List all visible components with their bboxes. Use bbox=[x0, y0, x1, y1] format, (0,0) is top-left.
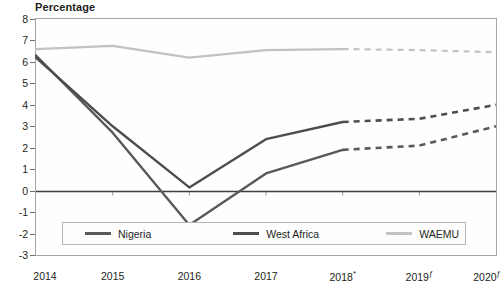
legend-label-nigeria: Nigeria bbox=[118, 228, 151, 240]
series-line-west-africa bbox=[36, 58, 343, 188]
series-forecast-west-africa bbox=[343, 105, 496, 122]
chart-container: Percentage 876543210-1-2-3 2014201520162… bbox=[0, 0, 503, 283]
legend-swatch-nigeria bbox=[85, 232, 111, 235]
legend-label-waemu: WAEMU bbox=[419, 228, 459, 240]
series-line-waemu bbox=[36, 46, 343, 58]
series-forecast-nigeria bbox=[343, 126, 496, 150]
series-forecast-waemu bbox=[343, 49, 496, 52]
series-line-nigeria bbox=[36, 55, 343, 224]
legend-item-waemu: WAEMU bbox=[386, 228, 459, 240]
legend-item-nigeria: Nigeria bbox=[85, 228, 151, 240]
legend-swatch-waemu bbox=[386, 232, 412, 235]
chart-legend: Nigeria West Africa WAEMU bbox=[62, 222, 466, 245]
legend-label-west-africa: West Africa bbox=[266, 228, 319, 240]
legend-item-west-africa: West Africa bbox=[233, 228, 319, 240]
legend-swatch-west-africa bbox=[233, 232, 259, 235]
